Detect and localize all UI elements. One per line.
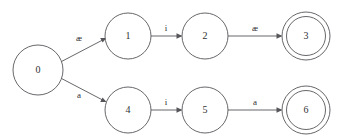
state-node-2[interactable]: 2 [182, 13, 228, 59]
fsa-diagram: æ i æ a i a 0 1 2 [0, 0, 342, 136]
state-6-label: 6 [304, 104, 309, 115]
transition-label-5-to-6: a [253, 97, 257, 107]
state-3-label: 3 [304, 30, 309, 41]
transition-5-to-6 [228, 107, 283, 112]
state-node-5[interactable]: 5 [182, 87, 228, 133]
states-layer: 0 1 2 3 4 [13, 12, 330, 134]
transition-label-2-to-3: æ [252, 23, 258, 33]
fsa-canvas: æ i æ a i a 0 1 2 [0, 0, 342, 136]
transition-1-to-2 [151, 33, 183, 38]
transition-0-to-4-line [62, 79, 106, 102]
transition-label-1-to-2: i [165, 23, 168, 33]
transitions-layer [62, 33, 283, 112]
state-node-0[interactable]: 0 [13, 45, 63, 95]
transition-0-to-1 [62, 38, 107, 62]
state-0-label: 0 [36, 64, 41, 75]
transition-4-to-5 [151, 107, 183, 112]
transition-label-4-to-5: i [165, 97, 168, 107]
state-5-label: 5 [203, 104, 208, 115]
state-node-6[interactable]: 6 [282, 86, 330, 134]
state-node-3[interactable]: 3 [282, 12, 330, 60]
transition-label-0-to-1: æ [76, 33, 82, 43]
transition-0-to-1-line [62, 39, 106, 62]
state-1-label: 1 [126, 30, 131, 41]
transition-label-0-to-4: a [77, 90, 81, 100]
state-node-4[interactable]: 4 [105, 87, 151, 133]
state-node-1[interactable]: 1 [105, 13, 151, 59]
transition-0-to-4 [62, 79, 107, 103]
state-4-label: 4 [126, 104, 131, 115]
state-2-label: 2 [203, 30, 208, 41]
transition-2-to-3 [228, 33, 283, 38]
transition-0-to-4-arrowhead [100, 97, 106, 102]
